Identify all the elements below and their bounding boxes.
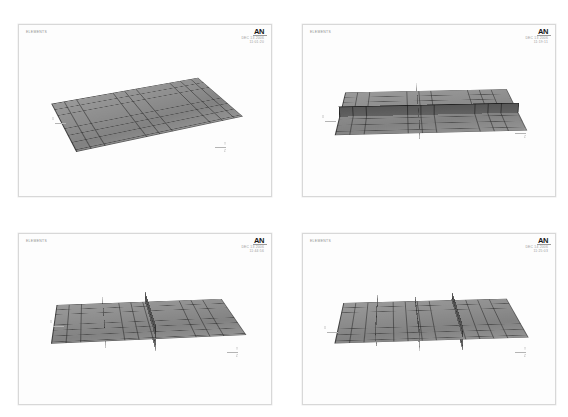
ansys-plot-panel-4[interactable]: ELEMENTS AN DEC 14 2006 11:25:03 X Y Z	[302, 233, 556, 406]
ansys-plot-panel-3[interactable]: ELEMENTS AN DEC 13 2006 11:44:56 X Y Z	[18, 233, 272, 406]
axis-label-z: Z	[236, 354, 238, 358]
axis-label-y: Y	[524, 347, 526, 351]
axis-label-x: X	[52, 117, 54, 121]
axis-label-y: Y	[524, 128, 526, 132]
axis-tick-x	[325, 121, 336, 122]
axis-label-y: Y	[224, 142, 226, 146]
axis-tick-x	[55, 123, 66, 124]
axis-tick-x	[53, 326, 64, 327]
model-viewport[interactable]	[19, 234, 271, 405]
plate-mesh	[51, 78, 243, 152]
plate-mesh	[334, 299, 528, 344]
axis-label-x: X	[324, 326, 326, 330]
ansys-plot-panel-1[interactable]: ELEMENTS AN DEC 13 2006 11:01:20 X Y Z	[18, 24, 272, 197]
axis-tick-y	[515, 352, 526, 353]
model-viewport[interactable]	[19, 25, 271, 196]
axis-label-x: X	[50, 320, 52, 324]
model-viewport[interactable]	[303, 234, 555, 405]
model-viewport[interactable]	[303, 25, 555, 196]
axis-label-x: X	[322, 115, 324, 119]
axis-tick-y	[215, 147, 226, 148]
figure-grid: ELEMENTS AN DEC 13 2006 11:01:20 X Y Z E…	[0, 0, 568, 417]
axis-label-z: Z	[524, 135, 526, 139]
axis-tick-y	[227, 352, 238, 353]
axis-tick-x	[327, 332, 338, 333]
ansys-plot-panel-2[interactable]: ELEMENTS AN DEC 13 2006 11:19:11 X Y Z	[302, 24, 556, 197]
figure-cell-3: ELEMENTS AN DEC 13 2006 11:44:56 X Y Z	[0, 209, 284, 417]
axis-label-z: Z	[524, 354, 526, 358]
figure-cell-4: ELEMENTS AN DEC 14 2006 11:25:03 X Y Z	[284, 209, 568, 417]
axis-tick-y	[515, 133, 526, 134]
figure-cell-2: ELEMENTS AN DEC 13 2006 11:19:11 X Y Z	[284, 0, 568, 209]
axis-label-z: Z	[224, 149, 226, 153]
figure-cell-1: ELEMENTS AN DEC 13 2006 11:01:20 X Y Z	[0, 0, 284, 209]
axis-label-y: Y	[236, 347, 238, 351]
